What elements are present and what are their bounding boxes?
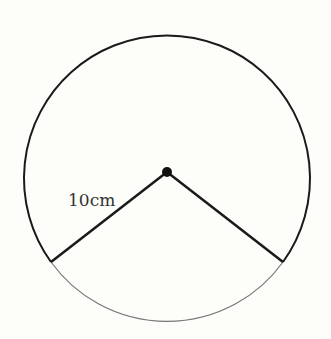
radius-right: [167, 172, 283, 262]
center-point: [162, 167, 172, 177]
radius-label: 10cm: [68, 190, 115, 210]
minor-arc: [51, 262, 283, 321]
radius-left: [51, 172, 167, 262]
circle-diagram: 10cm: [0, 0, 331, 339]
major-arc: [24, 35, 310, 262]
